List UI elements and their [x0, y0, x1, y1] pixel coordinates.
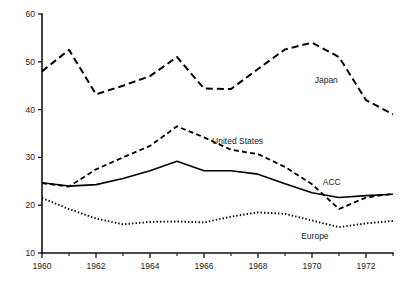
x-axis-tick-labels: 1960196219641966196819701972 — [33, 261, 376, 271]
x-tick-label-1968: 1968 — [249, 261, 268, 271]
series-label-united-states: United States — [212, 136, 263, 146]
x-tick-label-1970: 1970 — [303, 261, 322, 271]
series-label-acc: ACC — [323, 177, 341, 187]
y-tick-label-50: 50 — [26, 57, 36, 67]
y-tick-label-20: 20 — [26, 200, 36, 210]
line-chart: 102030405060 196019621964196619681970197… — [0, 0, 410, 285]
chart-series-annotations: JapanUnited StatesACCEurope — [212, 75, 341, 241]
series-label-japan: Japan — [315, 75, 338, 85]
x-tick-label-1966: 1966 — [195, 261, 214, 271]
x-tick-label-1962: 1962 — [87, 261, 106, 271]
x-tick-label-1964: 1964 — [141, 261, 160, 271]
x-tick-label-1960: 1960 — [33, 261, 52, 271]
y-tick-label-10: 10 — [26, 248, 36, 258]
y-axis-tick-labels: 102030405060 — [26, 9, 36, 258]
y-tick-label-40: 40 — [26, 105, 36, 115]
chart-plot-area: 102030405060 196019621964196619681970197… — [0, 0, 410, 285]
x-tick-label-1972: 1972 — [357, 261, 376, 271]
y-tick-label-60: 60 — [26, 9, 36, 19]
series-line-europe — [42, 198, 393, 227]
series-label-europe: Europe — [301, 231, 329, 241]
y-tick-label-30: 30 — [26, 152, 36, 162]
series-line-japan — [42, 43, 393, 115]
chart-series-lines — [42, 43, 393, 228]
